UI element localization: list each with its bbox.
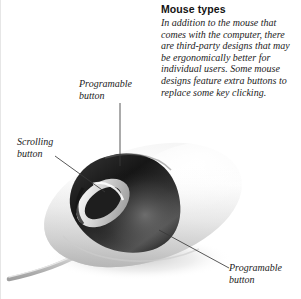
caption-body: In addition to the mouse that comes with…: [161, 17, 297, 98]
callout-programable-button-bottom: Programable button: [229, 262, 282, 285]
callout-scrolling-button: Scrolling button: [17, 136, 53, 159]
callout-programable-button-top: Programable button: [79, 78, 132, 101]
caption-block: Mouse types In addition to the mouse tha…: [161, 3, 297, 98]
mouse-types-figure: Mouse types In addition to the mouse tha…: [0, 0, 301, 299]
caption-title: Mouse types: [161, 3, 297, 16]
